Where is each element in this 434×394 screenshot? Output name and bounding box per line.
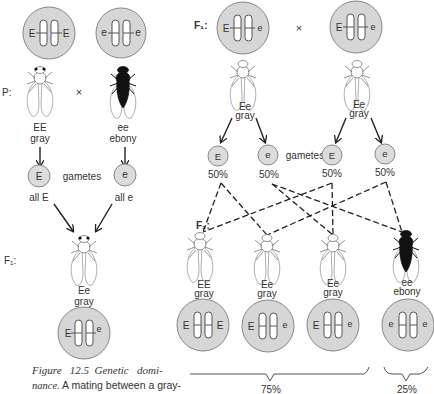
f1-genotype: Ee: [78, 285, 91, 296]
f1-gamete-1-percent: 50%: [208, 169, 228, 180]
f1-cross-symbol: ×: [296, 22, 302, 34]
p-right-gamete: e: [114, 164, 136, 186]
p-left-cell: E e E: [23, 7, 75, 59]
f2-fly-icon-1: [187, 233, 213, 283]
fertilization-line-e2-ee: [386, 182, 402, 232]
f1-parent-cell-2: E e: [330, 1, 382, 53]
ratio-75-label: 75%: [261, 384, 281, 394]
caption-line-1: Figure 12.5 Genetic domi-: [31, 364, 163, 376]
arrow-p1-to-gamete-2: [256, 118, 265, 142]
svg-text:e: e: [265, 149, 270, 160]
f1-gamete-3: E: [322, 145, 342, 165]
f1-gamete-4: e: [375, 144, 395, 164]
f1-gamete-1: E: [208, 146, 228, 166]
f1-parent-cell-1: E e: [217, 2, 269, 54]
svg-text:E: E: [183, 320, 190, 331]
svg-text:E: E: [36, 171, 43, 182]
f2-label: F₂:: [196, 220, 210, 231]
f2-fly-icon-4: [393, 231, 419, 283]
f2-phenotype-1: gray: [194, 288, 213, 299]
f1-parent-phenotype-2: gray: [349, 108, 368, 119]
p-gray-fly-icon: [27, 67, 53, 117]
svg-text:e: e: [96, 324, 101, 334]
caption-rest: A mating between a gray-: [60, 379, 182, 391]
f2-cell-4: e e: [382, 299, 434, 351]
f2-phenotype-3: gray: [323, 287, 342, 298]
svg-text:E: E: [313, 320, 320, 331]
p-left-gamete: E: [28, 165, 50, 187]
diagram-canvas: E e E e e P: × EE gray ee ebony E gamete…: [0, 0, 434, 394]
arrow-p1-to-gamete-1: [221, 118, 232, 142]
p-right-genotype: ee: [117, 122, 129, 133]
svg-text:e: e: [422, 319, 427, 329]
f1-cross-label: F₁:: [194, 20, 208, 31]
arrow-gamete-e-small-to-f1: [96, 204, 112, 231]
f2-phenotype-4: ebony: [393, 286, 420, 297]
arrow-gamete-e-to-f1: [54, 204, 73, 231]
allele-label: e: [135, 27, 141, 38]
arrow-p2-to-gamete-3: [336, 118, 346, 142]
svg-text:E: E: [215, 151, 221, 162]
caption-italic-word: nance.: [32, 380, 60, 391]
svg-text:E: E: [65, 328, 72, 339]
p-gametes-label: gametes: [63, 171, 101, 182]
caption-line-2: nance. A mating between a gray-: [32, 379, 182, 391]
svg-text:e: e: [382, 148, 387, 159]
p-right-gamete-caption: all e: [115, 192, 134, 203]
svg-text:e: e: [370, 22, 375, 32]
p-ebony-fly-icon: [110, 67, 136, 119]
p-right-phenotype: ebony: [109, 133, 136, 144]
svg-text:e: e: [122, 169, 128, 180]
f1-gametes-label: gametes: [286, 150, 324, 161]
svg-text:E: E: [217, 320, 224, 331]
p-left-genotype: EE: [33, 122, 47, 133]
f2-cell-1: E E: [177, 299, 229, 351]
genetic-dominance-figure: E e E e e P: × EE gray ee ebony E gamete…: [0, 0, 434, 394]
svg-text:E: E: [329, 150, 335, 161]
fertilization-line-E2-Ee: [332, 183, 333, 235]
p-cross-symbol: ×: [76, 86, 82, 98]
p-left-phenotype: gray: [30, 133, 49, 144]
svg-text:e: e: [282, 320, 287, 330]
f2-cell-3: E e: [307, 299, 359, 351]
fertilization-line-E-e: [221, 183, 267, 235]
arrow-p2-to-gamete-4: [371, 118, 381, 142]
f1-gamete-3-percent: 50%: [322, 168, 342, 179]
f2-fly-icon-3: [320, 235, 346, 285]
p-left-gamete-caption: all E: [29, 192, 49, 203]
f1-left-label: F₁:: [4, 255, 16, 266]
allele-label: e: [101, 27, 107, 38]
allele-label: E: [63, 28, 70, 39]
fertilization-line-e-e: [272, 184, 402, 232]
f1-phenotype: gray: [74, 296, 93, 307]
f1-gamete-2-percent: 50%: [259, 169, 279, 180]
f2-phenotype-2: gray: [257, 288, 276, 299]
f1-parent-phenotype-1: gray: [235, 110, 254, 121]
p-generation-label: P:: [2, 87, 11, 98]
fertilization-line-e2-Ee: [267, 182, 386, 235]
svg-text:E: E: [336, 22, 343, 33]
svg-text:E: E: [248, 321, 255, 332]
f2-cell-2: E e: [242, 300, 294, 352]
f1-gamete-2: e: [258, 145, 278, 165]
svg-text:e: e: [257, 23, 262, 33]
f1-gamete-4-percent: 50%: [375, 167, 395, 178]
fertilization-line-E2-E: [203, 183, 332, 232]
f1-gray-fly-icon: [71, 236, 97, 286]
brace-75-percent: [190, 367, 369, 381]
f2-fly-icon-2: [254, 235, 280, 285]
ratio-25-label: 25%: [397, 384, 417, 394]
svg-text:e: e: [388, 319, 393, 329]
f1-left-cell: E e: [58, 307, 110, 359]
svg-text:E: E: [223, 23, 230, 34]
allele-label: E: [29, 28, 36, 39]
brace-25-percent: [384, 367, 428, 381]
svg-text:e: e: [347, 319, 352, 329]
p-right-cell: e e: [96, 8, 146, 58]
